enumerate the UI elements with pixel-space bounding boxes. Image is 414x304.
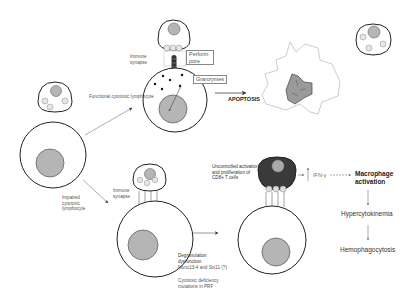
left-target-cell (20, 122, 86, 188)
label-immune-synapse-top: Immune synapse (130, 54, 158, 65)
label-impaired-ctl: Impaired cytotoxic lymphocyte (62, 195, 92, 212)
label-apoptosis: APOPTOSIS (228, 96, 260, 103)
bottom-lymphocyte (133, 164, 166, 206)
label-functional-ctl: Functional cytotoxic lymphocyte (89, 94, 154, 100)
label-macrophage-activation: Macrophage activation (355, 170, 407, 186)
released-lymphocyte (356, 24, 391, 55)
label-perforin-pore: Perforin pore (186, 50, 214, 65)
label-uncontrolled-activation: Uncontrolled activation and proliferatio… (212, 164, 260, 181)
label-hypercytokinemia: Hypercytokinemia (341, 210, 393, 218)
label-hemophagocytosis: Hemophagocytosis (340, 246, 395, 254)
label-granzymes: Granzymes (193, 75, 227, 84)
activated-cd8-cell (258, 157, 296, 207)
label-cytotoxic-deficiency: Cytotoxic deficiency mutations in PRF (178, 278, 222, 289)
activation-target-cell (238, 206, 306, 274)
hlh-pathogenesis-diagram: Functional cytotoxic lymphocyte Impaired… (0, 0, 414, 304)
label-degranulation-dysfunction: Degranulation dysfunction (178, 253, 220, 264)
arrow-functional (85, 108, 132, 135)
apoptotic-cell (262, 42, 340, 114)
label-ifn-gamma: IFN-γ (313, 172, 326, 179)
left-lymphocyte (38, 82, 72, 112)
label-immune-synapse-bottom: Immune synapse (113, 188, 139, 199)
label-munc-stx: Munc13-4 and Stx11 (?) (178, 265, 227, 271)
